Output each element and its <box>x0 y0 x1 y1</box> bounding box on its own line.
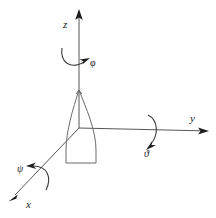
rotation-arc-psi <box>26 162 49 190</box>
rotation-arc-theta <box>146 115 156 150</box>
figure-canvas: z y x φ ϑ ψ <box>0 0 216 218</box>
rotation-arc-phi <box>62 48 90 65</box>
projectile-body <box>66 90 96 163</box>
axis-y <box>79 127 209 134</box>
body-left-flank <box>66 90 79 163</box>
coordinate-system-figure: z y x φ ϑ ψ <box>0 0 216 218</box>
angle-label-psi: ψ <box>17 163 24 174</box>
axis-z <box>75 9 83 128</box>
rotation-arc-psi-path <box>33 166 49 190</box>
body-right-flank <box>79 90 96 163</box>
axis-label-x: x <box>25 198 31 210</box>
axis-label-z: z <box>62 18 68 30</box>
axis-x-line <box>15 128 79 195</box>
angle-label-theta: ϑ <box>144 148 150 159</box>
axis-y-line <box>79 128 201 131</box>
axis-label-y: y <box>189 112 195 124</box>
rotation-arc-phi-path <box>62 48 84 65</box>
angle-label-phi: φ <box>90 57 96 68</box>
axis-x-arrowhead <box>9 195 21 202</box>
